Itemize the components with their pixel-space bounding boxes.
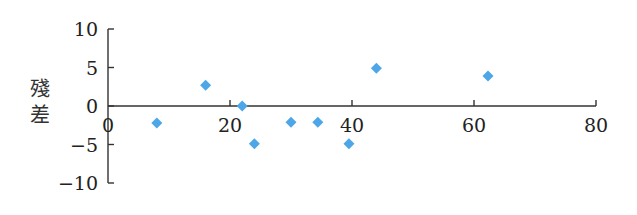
data-point-diamond: [483, 70, 494, 81]
data-point-diamond: [312, 117, 323, 128]
data-point-diamond: [343, 138, 354, 149]
residual-scatter-chart: 1050−5−10 020406080 殘差: [0, 0, 637, 215]
data-point-diamond: [371, 63, 382, 74]
y-tick-label: 0: [86, 95, 98, 117]
data-point-diamond: [249, 138, 260, 149]
data-point-diamond: [237, 101, 248, 112]
x-tick-label: 0: [102, 114, 114, 136]
y-axis: 1050−5−10: [58, 18, 114, 194]
y-axis-label: 殘差: [30, 77, 50, 127]
data-point-diamond: [200, 80, 211, 91]
x-tick-label: 60: [462, 114, 486, 136]
data-point-diamond: [151, 117, 162, 128]
x-tick-label: 80: [584, 114, 608, 136]
y-axis-label-char: 殘: [30, 77, 50, 101]
y-tick-label: −5: [70, 134, 98, 156]
y-tick-label: 5: [86, 57, 98, 79]
data-point-diamond: [286, 117, 297, 128]
x-tick-label: 40: [340, 114, 364, 136]
y-tick-label: 10: [74, 18, 98, 40]
y-tick-label: −10: [58, 172, 98, 194]
y-axis-label-char: 差: [30, 103, 50, 127]
x-tick-label: 20: [218, 114, 242, 136]
x-axis: 020406080: [102, 100, 608, 136]
